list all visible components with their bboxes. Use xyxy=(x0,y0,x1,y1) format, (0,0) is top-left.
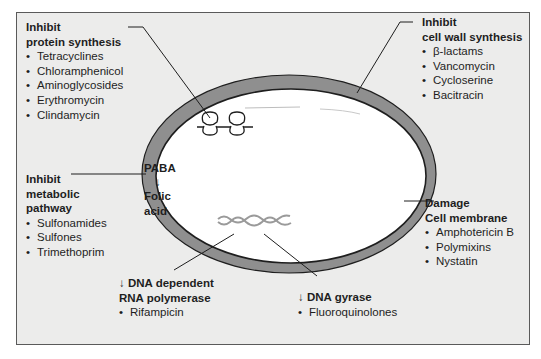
drug-item: Fluoroquinolones xyxy=(298,305,397,320)
paba-text: PABA xyxy=(144,161,176,176)
folic-text: Folic xyxy=(144,189,171,204)
drug-item: Cycloserine xyxy=(422,73,522,88)
drug-item: Sulfones xyxy=(26,230,107,245)
dna-gyrase-group: ↓ DNA gyrase Fluoroquinolones xyxy=(298,290,397,319)
drug-item: Sulfonamides xyxy=(26,216,107,231)
drug-item: Aminoglycosides xyxy=(26,78,123,93)
metabolic-heading-line2: metabolic xyxy=(26,187,107,202)
drug-item: Bacitracin xyxy=(422,88,522,103)
rna-polymerase-group: ↓ DNA dependent RNA polymerase Rifampici… xyxy=(119,276,214,320)
dna-gyrase-heading: ↓ DNA gyrase xyxy=(298,290,397,305)
pathway-arrow: ↓ xyxy=(155,175,161,190)
drug-item: Nystatin xyxy=(425,254,514,269)
protein-synthesis-heading-line1: Inhibit xyxy=(26,20,123,35)
folic-acid-label: Folic acid xyxy=(144,189,171,218)
drug-item: Erythromycin xyxy=(26,93,123,108)
cell-membrane-group: Damage Cell membrane Amphotericin B Poly… xyxy=(425,196,514,269)
rna-polymerase-heading-line1: ↓ DNA dependent xyxy=(119,276,214,291)
drug-item: Tetracyclines xyxy=(26,49,123,64)
protein-synthesis-heading-line2: protein synthesis xyxy=(26,35,123,50)
down-arrow-icon: ↓ xyxy=(155,175,161,190)
protein-synthesis-group: Inhibit protein synthesis Tetracyclines … xyxy=(26,20,123,122)
metabolic-heading-line1: Inhibit xyxy=(26,172,107,187)
rna-polymerase-drug-list: Rifampicin xyxy=(119,305,214,320)
acid-text: acid xyxy=(144,204,171,219)
metabolic-pathway-group: Inhibit metabolic pathway Sulfonamides S… xyxy=(26,172,107,260)
membrane-heading-line1: Damage xyxy=(425,196,514,211)
dna-gyrase-drug-list: Fluoroquinolones xyxy=(298,305,397,320)
drug-item: Vancomycin xyxy=(422,59,522,74)
drug-item: Chloramphenicol xyxy=(26,64,123,79)
drug-item: Rifampicin xyxy=(119,305,214,320)
metabolic-drug-list: Sulfonamides Sulfones Trimethoprim xyxy=(26,216,107,260)
drug-item: Trimethoprim xyxy=(26,245,107,260)
drug-item: β-lactams xyxy=(422,44,522,59)
metabolic-heading-line3: pathway xyxy=(26,201,107,216)
paba-label: PABA xyxy=(144,161,176,176)
cell-wall-drug-list: β-lactams Vancomycin Cycloserine Bacitra… xyxy=(422,44,522,102)
membrane-heading-line2: Cell membrane xyxy=(425,211,514,226)
drug-item: Polymixins xyxy=(425,240,514,255)
protein-synthesis-drug-list: Tetracyclines Chloramphenicol Aminoglyco… xyxy=(26,49,123,122)
rna-polymerase-heading-line2: RNA polymerase xyxy=(119,291,214,306)
cell-wall-heading-line2: cell wall synthesis xyxy=(422,30,522,45)
cell-wall-group: Inhibit cell wall synthesis β-lactams Va… xyxy=(422,15,522,103)
drug-item: Clindamycin xyxy=(26,108,123,123)
drug-item: Amphotericin B xyxy=(425,225,514,240)
cell-wall-heading-line1: Inhibit xyxy=(422,15,522,30)
membrane-drug-list: Amphotericin B Polymixins Nystatin xyxy=(425,225,514,269)
